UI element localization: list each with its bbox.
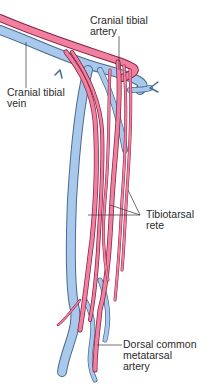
vascular-diagram xyxy=(0,0,210,387)
label-tibiotarsal-rete: Tibiotarsal rete xyxy=(146,209,194,231)
label-dorsal-common-metatarsal-artery: Dorsal common metatarsal artery xyxy=(123,339,197,372)
label-cranial-tibial-artery: Cranial tibial artery xyxy=(90,15,148,37)
label-cranial-tibial-vein: Cranial tibial vein xyxy=(7,87,65,109)
